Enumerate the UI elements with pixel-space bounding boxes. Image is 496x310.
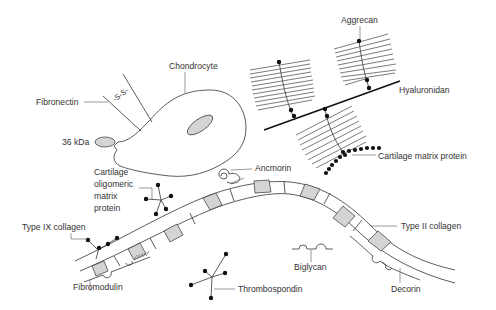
cartilage-matrix-protein [324,146,381,175]
type-ii-collagen-fibril [75,180,455,283]
36kda-protein [95,137,115,147]
cartilage-matrix-protein-label: Cartilage matrix protein [378,151,467,161]
comp-label-line4: protein [94,203,120,213]
chondrocyte-label: Chondrocyte [169,61,218,71]
comp-label-line3: matrix [94,191,118,201]
36kda-label: 36 kDa [62,137,89,147]
aggrecan-label: Aggrecan [341,15,378,25]
comp-label-line2: oligomeric [94,179,134,189]
decorin-label: Decorin [391,284,421,294]
thrombospondin [189,252,228,300]
ancmorin-spiral [219,169,244,183]
nucleus [184,111,215,138]
hyaluronidan-label: Hyaluronidan [399,85,450,95]
comp-label-line1: Cartilage [94,167,129,177]
biglycan [292,244,333,249]
type-ix-collagen-label: Type IX collagen [22,222,86,232]
fibronectin-label: Fibronectin [36,97,79,107]
cartilage-matrix-diagram: Chondrocyte -S-S- Fibronectin 36 kDa Hya… [0,0,496,310]
disulfide-bond-label: -S-S- [111,85,131,103]
aggrecan-monomer [250,60,315,118]
type-ii-collagen-label: Type II collagen [401,221,461,231]
fibromodulin-label: Fibromodulin [73,282,123,292]
fibronectin [103,74,152,131]
aggrecan-monomer-labelled [334,34,396,90]
biglycan-label: Biglycan [294,262,327,272]
ancmorin-label: Ancmorin [255,163,292,173]
thrombospondin-label: Thrombospondin [238,284,303,294]
chondrocyte-cell [114,90,246,176]
